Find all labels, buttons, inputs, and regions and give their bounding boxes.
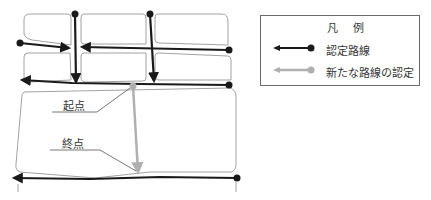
legend-label: 新たな路線の認定 (326, 64, 414, 80)
block-r1-c1 (24, 14, 71, 45)
legend-item-certified-route: 認定路線 (261, 41, 419, 57)
endpoint-dot (226, 82, 233, 89)
legend-item-new-route: 新たな路線の認定 (261, 63, 419, 79)
black-arrow-dot-icon (273, 43, 317, 53)
end-point-label: 終点 (62, 135, 84, 151)
end-leader (50, 150, 136, 171)
gray-arrow-dot-icon (273, 65, 317, 75)
new-route (130, 83, 139, 173)
block-r2-c1 (24, 53, 71, 82)
legend-title: 凡 例 (327, 19, 371, 35)
route-bottom (14, 177, 237, 179)
endpoint-dot (17, 40, 24, 47)
start-point-label: 起点 (63, 97, 85, 113)
new-route-start-dot (130, 83, 137, 90)
route-col1 (75, 14, 76, 82)
block-bottom-stubs (18, 182, 236, 192)
block-r1-c3 (155, 14, 228, 45)
block-r2-c2 (81, 53, 146, 82)
route-endpoints (17, 11, 241, 182)
legend-label: 認定路線 (326, 42, 370, 58)
endpoint-dot (226, 47, 233, 54)
endpoint-dot (147, 11, 154, 18)
block-r1-c2 (81, 14, 146, 44)
route-row1-right (82, 47, 228, 50)
block-r2-c3 (155, 53, 231, 80)
legend: 凡 例 認定路線 新たな路線の認定 (260, 15, 420, 86)
certified-routes (14, 14, 237, 179)
endpoint-dot (234, 175, 241, 182)
block-r3 (16, 88, 236, 178)
endpoint-dot (72, 11, 79, 18)
